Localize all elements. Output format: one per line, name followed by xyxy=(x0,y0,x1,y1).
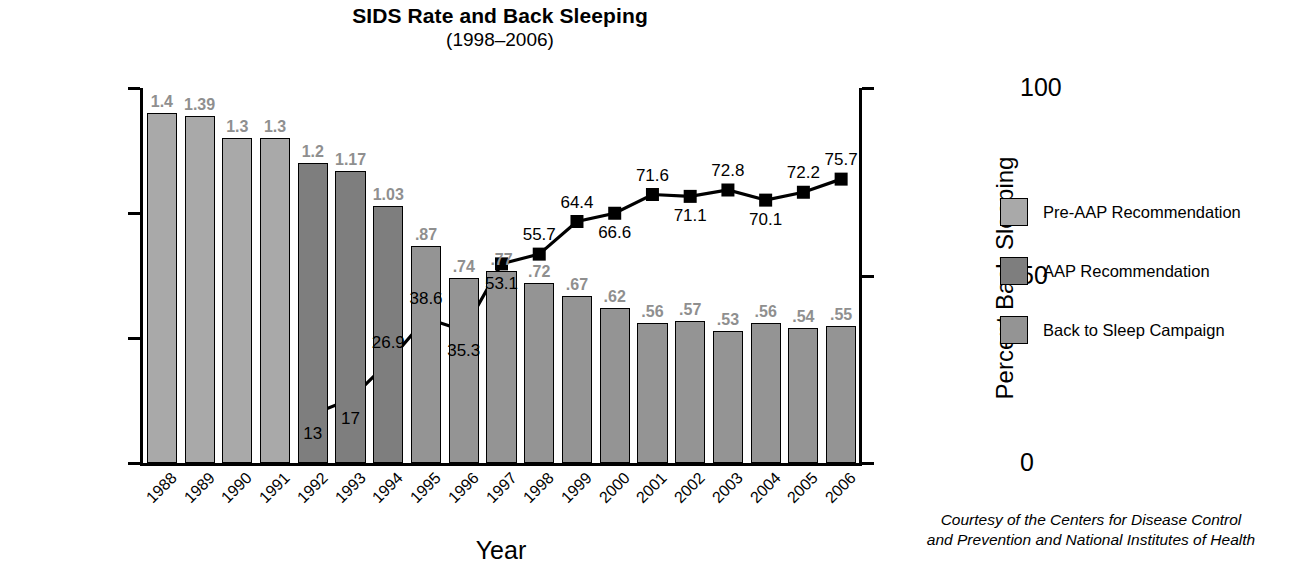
legend-item-aap[interactable]: AAP Recommendation xyxy=(1000,257,1241,285)
line-value-label: 70.1 xyxy=(749,210,782,230)
title-block: SIDS Rate and Back Sleeping (1998–2006) xyxy=(150,4,850,51)
legend-swatch-pre-aap xyxy=(1000,198,1028,226)
bar-value-label: .57 xyxy=(679,301,701,319)
bar-2001[interactable] xyxy=(637,323,667,463)
bar-1989[interactable] xyxy=(185,116,215,464)
chart-title: SIDS Rate and Back Sleeping xyxy=(150,4,850,28)
bar-1988[interactable] xyxy=(147,113,177,463)
bar-value-label: .54 xyxy=(792,308,814,326)
line-value-label: 71.6 xyxy=(636,166,669,186)
bar-value-label: .74 xyxy=(453,258,475,276)
bar-1992[interactable] xyxy=(298,163,328,463)
bar-1991[interactable] xyxy=(260,138,290,463)
bar-value-label: .87 xyxy=(415,226,437,244)
line-value-label: 72.2 xyxy=(787,163,820,183)
bar-value-label: 1.39 xyxy=(184,96,215,114)
line-value-label: 53.1 xyxy=(485,274,518,294)
bar-1997[interactable] xyxy=(486,271,516,464)
x-tick-text: 1988 xyxy=(143,469,181,507)
y-tick-label-right: 100 xyxy=(1020,75,1100,100)
bar-value-label: 1.3 xyxy=(226,118,248,136)
line-value-label: 38.6 xyxy=(409,289,442,309)
line-value-label: 75.7 xyxy=(825,150,858,170)
y-tick-right xyxy=(862,87,874,90)
bar-1990[interactable] xyxy=(222,138,252,463)
y-tick-left xyxy=(128,212,140,215)
bar-value-label: .53 xyxy=(717,311,739,329)
chart-subtitle: (1998–2006) xyxy=(150,29,850,52)
bar-value-label: 1.4 xyxy=(151,93,173,111)
line-value-label: 17 xyxy=(341,409,360,429)
legend-item-back-to-sleep[interactable]: Back to Sleep Campaign xyxy=(1000,316,1241,344)
legend: Pre-AAP Recommendation AAP Recommendatio… xyxy=(1000,198,1241,375)
line-value-label: 35.3 xyxy=(447,341,480,361)
line-marker-2002[interactable] xyxy=(684,190,697,203)
bar-2000[interactable] xyxy=(600,308,630,463)
credit-note: Courtesy of the Centers for Disease Cont… xyxy=(896,510,1286,550)
line-marker-1999[interactable] xyxy=(570,215,583,228)
bar-value-label: .62 xyxy=(604,288,626,306)
bar-2006[interactable] xyxy=(826,326,856,464)
y-tick-left xyxy=(128,337,140,340)
bar-value-label: .72 xyxy=(528,263,550,281)
legend-label-pre-aap: Pre-AAP Recommendation xyxy=(1043,203,1241,222)
credit-line-2: and Prevention and National Institutes o… xyxy=(896,530,1286,550)
bar-value-label: 1.2 xyxy=(302,143,324,161)
line-marker-1998[interactable] xyxy=(533,248,546,261)
line-value-label: 66.6 xyxy=(598,223,631,243)
bar-value-label: .56 xyxy=(755,303,777,321)
bar-1999[interactable] xyxy=(562,296,592,464)
line-value-label: 13 xyxy=(303,424,322,444)
y-tick-left xyxy=(128,462,140,465)
bar-2004[interactable] xyxy=(751,323,781,463)
line-marker-2004[interactable] xyxy=(759,194,772,207)
bar-value-label: 1.17 xyxy=(335,151,366,169)
line-marker-2006[interactable] xyxy=(835,173,848,186)
y-tick-left xyxy=(128,87,140,90)
line-value-label: 26.9 xyxy=(372,333,405,353)
line-marker-2005[interactable] xyxy=(797,186,810,199)
bar-2003[interactable] xyxy=(713,331,743,464)
legend-swatch-back-to-sleep xyxy=(1000,316,1028,344)
plot-area: 0.00.51.01.50501001.419881.3919891.31990… xyxy=(140,88,862,466)
sids-chart: SIDS Rate and Back Sleeping (1998–2006) … xyxy=(0,0,1291,576)
bar-value-label: 1.03 xyxy=(373,186,404,204)
line-value-label: 72.8 xyxy=(711,161,744,181)
y-tick-label-right: 0 xyxy=(1020,450,1100,475)
x-axis-title: Year xyxy=(140,536,862,565)
bar-value-label: 1.3 xyxy=(264,118,286,136)
y-tick-right xyxy=(862,275,874,278)
legend-item-pre-aap[interactable]: Pre-AAP Recommendation xyxy=(1000,198,1241,226)
bar-2002[interactable] xyxy=(675,321,705,464)
line-value-label: 64.4 xyxy=(560,193,593,213)
line-value-label: 71.1 xyxy=(674,206,707,226)
bar-2005[interactable] xyxy=(788,328,818,463)
bar-1998[interactable] xyxy=(524,283,554,463)
line-marker-2001[interactable] xyxy=(646,188,659,201)
bar-value-label: .56 xyxy=(641,303,663,321)
line-marker-2000[interactable] xyxy=(608,207,621,220)
line-value-label: 55.7 xyxy=(523,225,556,245)
legend-swatch-aap xyxy=(1000,257,1028,285)
legend-label-back-to-sleep: Back to Sleep Campaign xyxy=(1043,321,1225,340)
bar-value-label: .67 xyxy=(566,276,588,294)
bar-value-label: .77 xyxy=(490,251,512,269)
legend-label-aap: AAP Recommendation xyxy=(1043,262,1210,281)
bar-value-label: .55 xyxy=(830,306,852,324)
bar-1996[interactable] xyxy=(449,278,479,463)
line-marker-2003[interactable] xyxy=(721,184,734,197)
credit-line-1: Courtesy of the Centers for Disease Cont… xyxy=(896,510,1286,530)
bar-1995[interactable] xyxy=(411,246,441,464)
